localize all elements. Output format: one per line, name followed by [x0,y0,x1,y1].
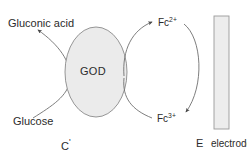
label-fc2-charge: 2+ [169,16,177,23]
label-c-prime: ' [69,137,71,147]
label-mediator-fc3plus: Fc3+ [157,113,176,124]
label-mediator-fc2plus: Fc2+ [158,17,177,28]
label-fc3-base: Fc [157,113,168,124]
label-gluconic-acid: Gluconic acid [8,18,74,29]
arrow-fc2-to-fc3 [184,24,199,112]
label-electrode: electrode [211,139,247,149]
arrow-god-to-fc2 [124,22,152,76]
label-compartment-c: C' [61,138,71,152]
diagram-canvas: Gluconic acid Glucose GOD Fc2+ Fc3+ C' E… [0,0,247,160]
label-enzyme-god: GOD [80,66,106,77]
arc-fc3-to-god [124,78,152,118]
electrode-bar [214,16,229,129]
label-glucose: Glucose [13,116,53,127]
label-compartment-e: E [196,138,203,149]
label-c-base: C [61,140,69,152]
label-fc2-base: Fc [158,17,169,28]
label-fc3-charge: 3+ [168,112,176,119]
